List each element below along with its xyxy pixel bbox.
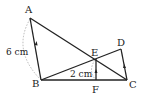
point-label-c: C bbox=[129, 79, 137, 90]
parallel-arrow-icon-ef bbox=[95, 69, 98, 73]
measure-ef: 2 cm bbox=[70, 69, 93, 79]
point-label-b: B bbox=[32, 78, 39, 89]
point-label-e: E bbox=[91, 47, 98, 58]
segment-dc bbox=[121, 49, 127, 80]
point-label-d: D bbox=[117, 37, 125, 48]
point-label-a: A bbox=[24, 4, 33, 15]
measure-ab: 6 cm bbox=[6, 47, 29, 57]
point-label-f: F bbox=[92, 84, 99, 95]
geometry-diagram: A B C D E F 6 cm 2 cm bbox=[0, 0, 145, 95]
segment-ab bbox=[30, 18, 41, 80]
